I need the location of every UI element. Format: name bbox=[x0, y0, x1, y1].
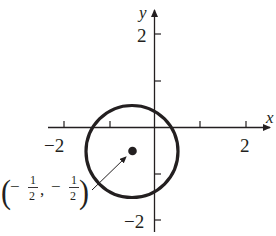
coordinate-plane: y x 2 −2 −2 2 ( − 1 2 , − 1 2 ) bbox=[0, 0, 276, 236]
y-tick-label-neg2: −2 bbox=[124, 211, 144, 232]
center-pointer-arrow bbox=[92, 157, 126, 190]
x-axis-label: x bbox=[265, 108, 274, 127]
minus-sign-2: − bbox=[51, 177, 61, 196]
center-point bbox=[128, 147, 137, 156]
y-axis-label: y bbox=[137, 3, 147, 22]
minus-sign-1: − bbox=[10, 177, 20, 196]
x-tick-label-neg2: −2 bbox=[44, 135, 64, 156]
center-label: ( − 1 2 , − 1 2 ) bbox=[1, 173, 89, 210]
fraction-2-numerator: 1 bbox=[71, 173, 77, 187]
fraction-1-denominator: 2 bbox=[29, 189, 35, 203]
fraction-1-numerator: 1 bbox=[30, 173, 36, 187]
paren-close: ) bbox=[79, 173, 89, 210]
x-tick-label-2: 2 bbox=[240, 135, 250, 156]
fraction-2-denominator: 2 bbox=[70, 189, 76, 203]
y-tick-label-2: 2 bbox=[137, 25, 147, 46]
comma: , bbox=[40, 180, 44, 199]
